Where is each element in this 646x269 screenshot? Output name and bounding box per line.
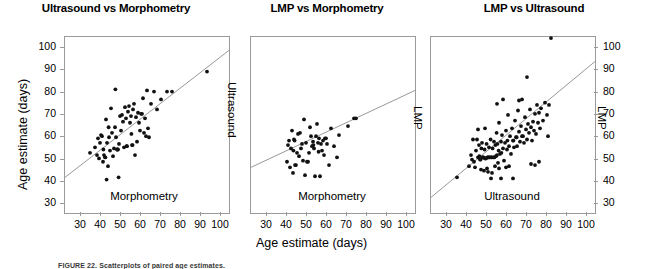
data-point [308, 125, 312, 129]
data-point [134, 115, 138, 119]
x-tick-mark [586, 212, 587, 216]
data-point [515, 135, 519, 139]
x-tick-mark [180, 212, 181, 216]
y-tick-mark [60, 114, 64, 115]
data-point [523, 115, 527, 119]
y-tick-label: 80 [22, 85, 56, 97]
data-point [538, 126, 542, 130]
data-point [519, 124, 523, 128]
data-point [313, 174, 317, 178]
data-point [546, 134, 550, 138]
data-point [145, 89, 149, 93]
data-point [491, 146, 495, 150]
data-point [304, 141, 308, 145]
data-point [317, 150, 321, 154]
x-tick-mark [140, 212, 141, 216]
data-point [107, 125, 111, 129]
data-point [471, 138, 475, 142]
data-point [309, 134, 313, 138]
data-point [125, 144, 129, 148]
data-point [545, 113, 549, 117]
y-tick-mark [60, 69, 64, 70]
data-point [102, 148, 106, 152]
data-point [332, 144, 336, 148]
data-point [533, 163, 537, 167]
y-tick-mark [594, 181, 598, 182]
data-point [117, 142, 121, 146]
panel-title: LMP vs Morphometry [232, 2, 422, 14]
data-point [113, 125, 117, 129]
data-point [128, 121, 132, 125]
y-tick-label: 100 [603, 40, 637, 52]
data-point [105, 178, 109, 182]
x-tick-mark [486, 212, 487, 216]
x-tick-mark [306, 212, 307, 216]
data-point [486, 170, 490, 174]
x-tick-mark [446, 212, 447, 216]
data-point [149, 102, 153, 106]
y-tick-label: 60 [603, 129, 637, 141]
data-point [291, 171, 295, 175]
data-point [510, 126, 514, 130]
data-point [492, 140, 496, 144]
panel-ultrasound-vs-morphometry: Ultrasound vs Morphometry Morphometry Ul… [0, 0, 232, 269]
y-tick-mark [594, 47, 598, 48]
data-point [147, 135, 151, 139]
data-point [107, 135, 111, 139]
data-point [506, 139, 510, 143]
y-tick-label: 30 [603, 196, 637, 208]
data-point [114, 87, 118, 91]
regression-line [65, 50, 229, 177]
data-point [146, 126, 150, 130]
y-tick-mark [594, 92, 598, 93]
data-point [317, 136, 321, 140]
data-point [480, 141, 484, 145]
data-point [327, 163, 331, 167]
data-point [537, 111, 541, 115]
data-point [500, 151, 504, 155]
data-point [504, 129, 508, 133]
data-point [337, 133, 341, 137]
x-tick-mark [80, 212, 81, 216]
y-tick-mark [60, 136, 64, 137]
plot-inner-xlabel: Ultrasound [452, 190, 572, 202]
data-point [300, 142, 304, 146]
data-point [205, 70, 209, 74]
data-point [324, 136, 328, 140]
figure-scatterplot-panels: Age estimate (days) Age estimate (days) … [0, 0, 646, 269]
x-tick-mark [466, 212, 467, 216]
data-point [132, 102, 136, 106]
data-point [455, 175, 459, 179]
data-point [124, 116, 128, 120]
data-point [104, 118, 108, 122]
x-tick-mark [160, 212, 161, 216]
data-point [490, 171, 494, 175]
data-point [131, 108, 135, 112]
data-point [123, 105, 127, 109]
data-point [114, 135, 118, 139]
y-tick-mark [60, 47, 64, 48]
data-point [473, 165, 477, 169]
data-point [489, 177, 493, 181]
data-point [472, 160, 476, 164]
data-point [98, 141, 102, 145]
data-point [504, 165, 508, 169]
data-point [100, 134, 104, 138]
data-point [110, 131, 114, 135]
data-point [518, 140, 522, 144]
data-point [298, 131, 302, 135]
data-point [155, 108, 159, 112]
data-point [294, 163, 298, 167]
data-point [513, 119, 517, 123]
x-tick-mark [366, 212, 367, 216]
plot-inner-xlabel: Morphometry [272, 190, 392, 202]
data-point [469, 153, 473, 157]
x-tick-mark [120, 212, 121, 216]
data-point [117, 175, 121, 179]
data-point [111, 154, 115, 158]
data-point [500, 133, 504, 137]
y-tick-label: 90 [603, 62, 637, 74]
panel-lmp-vs-ultrasound: LMP vs Ultrasound Ultrasound LMP 3040506… [422, 0, 646, 269]
x-tick-mark [386, 212, 387, 216]
data-point [293, 139, 297, 143]
